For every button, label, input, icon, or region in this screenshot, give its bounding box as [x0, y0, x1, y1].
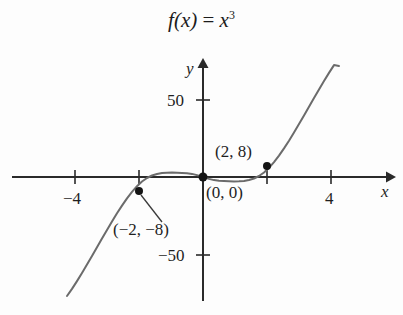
- point-label-neg2-neg8: (−2, −8): [113, 221, 169, 238]
- plot-canvas: [0, 0, 403, 315]
- x-axis-arrow-icon: [386, 172, 396, 183]
- marker-point-origin: [199, 173, 208, 182]
- marker-point-2-8: [263, 162, 271, 170]
- y-tick-label-50: 50: [167, 92, 184, 109]
- point-label-origin: (0, 0): [206, 184, 243, 201]
- y-tick-label--50: −50: [158, 247, 185, 264]
- leader-line-neg2-neg8: [141, 195, 162, 222]
- x-axis-label: x: [381, 183, 389, 200]
- graph-figure: f(x) = x3 y x −4 4 50 −50 (2, 8) (0,: [0, 0, 403, 315]
- point-label-2-8: (2, 8): [215, 143, 252, 160]
- y-axis-arrow-icon: [198, 58, 209, 68]
- y-axis-label: y: [186, 60, 194, 77]
- marker-point-neg2-neg8: [135, 187, 143, 195]
- x-tick-label-4: 4: [325, 190, 334, 207]
- x-tick-label--4: −4: [63, 190, 81, 207]
